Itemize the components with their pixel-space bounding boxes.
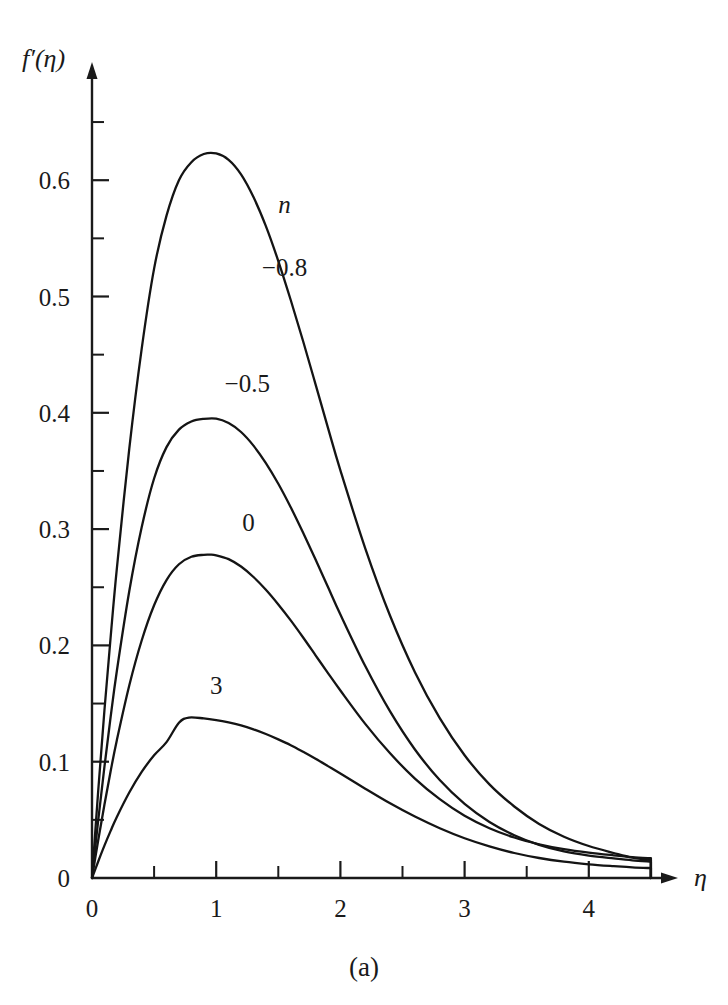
x-tick-label: 1 bbox=[210, 895, 223, 922]
series-curve-n--0.8 bbox=[92, 153, 651, 878]
y-tick-label: 0.2 bbox=[39, 632, 70, 659]
y-axis-label: f′(η) bbox=[22, 44, 65, 73]
y-tick-label: 0.3 bbox=[39, 516, 70, 543]
series-label-0: 0 bbox=[242, 509, 255, 536]
series-curve-n--0.5 bbox=[92, 418, 651, 878]
series-label-0.5: −0.5 bbox=[225, 370, 270, 397]
series-label-3: 3 bbox=[210, 672, 223, 699]
x-axis-label: η bbox=[694, 863, 707, 892]
x-tick-label: 4 bbox=[583, 895, 596, 922]
y-axis-minor-ticks bbox=[92, 122, 104, 820]
x-axis-arrowhead bbox=[661, 873, 678, 884]
figure-container: 00.10.20.30.40.50.6 01234 n−0.8−0.503 f′… bbox=[0, 0, 728, 1005]
y-tick-label: 0.4 bbox=[39, 400, 71, 427]
x-tick-label: 0 bbox=[86, 895, 99, 922]
y-tick-label: 0.6 bbox=[39, 167, 70, 194]
y-tick-label: 0.1 bbox=[39, 749, 70, 776]
y-tick-label: 0 bbox=[58, 865, 71, 892]
y-axis-tick-labels: 00.10.20.30.40.50.6 bbox=[39, 167, 71, 892]
y-tick-label: 0.5 bbox=[39, 284, 70, 311]
y-axis-arrowhead bbox=[87, 62, 98, 79]
x-axis bbox=[92, 873, 678, 884]
series-label-n: n bbox=[278, 191, 291, 218]
x-tick-label: 2 bbox=[334, 895, 347, 922]
data-series-group bbox=[92, 153, 651, 878]
x-tick-label: 3 bbox=[458, 895, 471, 922]
series-curve-n-3 bbox=[92, 717, 651, 878]
line-chart: 00.10.20.30.40.50.6 01234 n−0.8−0.503 f′… bbox=[0, 0, 728, 1005]
x-axis-minor-ticks bbox=[154, 866, 651, 878]
series-label-0.8: −0.8 bbox=[262, 254, 307, 281]
x-axis-tick-labels: 01234 bbox=[86, 895, 596, 922]
series-curve-n-0 bbox=[92, 555, 651, 878]
figure-caption: (a) bbox=[349, 952, 379, 982]
